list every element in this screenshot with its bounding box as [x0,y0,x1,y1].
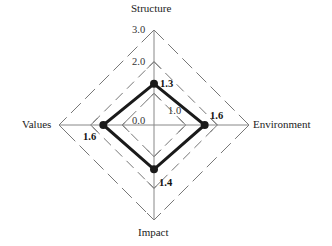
data-point-values [99,121,107,129]
data-point-environment [201,121,209,129]
tick-label-0: 0.0 [132,115,145,126]
axis-label-impact: Impact [138,226,169,238]
data-point-impact [150,165,158,173]
axis-label-values: Values [22,118,51,130]
tick-label-1: 1.0 [168,105,181,116]
value-label-values: 1.6 [83,131,96,142]
value-label-environment: 1.6 [210,110,223,121]
data-point-structure [150,80,158,88]
value-label-impact: 1.4 [159,177,172,188]
tick-label-3: 3.0 [132,24,145,35]
radar-axes [59,30,249,220]
axis-label-environment: Environment [253,118,310,130]
tick-label-2: 2.0 [132,56,145,67]
axis-label-structure: Structure [131,2,171,14]
value-label-structure: 1.3 [160,78,173,89]
